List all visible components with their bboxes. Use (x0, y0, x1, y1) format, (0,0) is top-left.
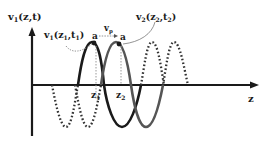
z-axis-arrow-icon (250, 82, 259, 89)
z1-label: z1 (91, 90, 100, 101)
point-a2-marker (117, 42, 122, 47)
point-a2-label: a (120, 32, 126, 42)
velocity-arrow-head-icon (114, 34, 118, 38)
point-a1-marker (92, 41, 97, 46)
wave1-label: v1(z1,t1) (43, 29, 84, 41)
wave2-dotted-left (75, 85, 101, 127)
wave2-label: v2(z2,t2) (135, 11, 176, 23)
axes (29, 27, 260, 136)
y-axis-label: v1(z,t) (7, 11, 42, 24)
wave1-dotted-right (141, 42, 164, 85)
point-a1-label: a (92, 31, 98, 41)
wave2-dotted-right (163, 42, 188, 85)
wave2-label-leader (123, 22, 155, 44)
velocity-label: vp (103, 23, 113, 35)
vertical-axis-arrow-icon (29, 27, 36, 36)
traveling-wave-diagram: v1(z,t) v1(z1,t1) v2(z2,t2) vp a a z1 z2… (0, 0, 268, 148)
z-axis-label: z (248, 93, 254, 104)
z2-label: z2 (116, 90, 125, 101)
wave-plot: v1(z,t) v1(z1,t1) v2(z2,t2) vp a a z1 z2… (0, 0, 268, 148)
wave1-dotted-left (52, 85, 78, 127)
